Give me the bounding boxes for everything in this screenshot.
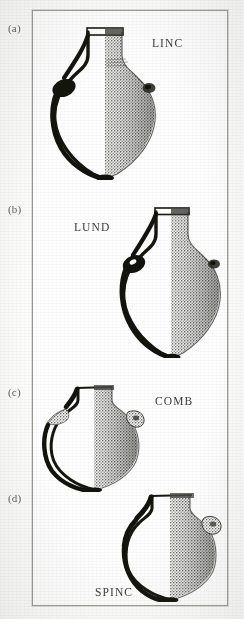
site-code-lund: LUND: [74, 221, 110, 233]
panel-letter-b: (b): [8, 203, 21, 215]
vessel-drawing-lund: [118, 202, 228, 358]
figure-plate: (a) (b) (c) (d) LINC LUND COMB SPINC: [0, 0, 244, 619]
vessel-drawing-comb: [42, 380, 150, 492]
panel-letter-a: (a): [8, 22, 21, 34]
vessel-drawing-spinc: [116, 486, 228, 602]
panel-letter-d: (d): [8, 492, 21, 504]
panel-letter-c: (c): [8, 386, 21, 398]
site-code-comb: COMB: [155, 395, 193, 407]
vessel-drawing-linc: [48, 22, 164, 180]
